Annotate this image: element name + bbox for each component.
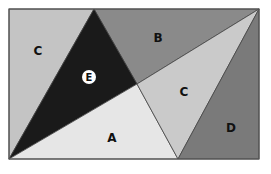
- label-d: D: [226, 121, 236, 135]
- label-c-left: C: [34, 44, 43, 58]
- label-b: B: [153, 31, 162, 45]
- partition-diagram: CBEACD: [0, 0, 271, 174]
- regions: [9, 9, 259, 159]
- label-a: A: [107, 131, 117, 145]
- label-c-right: C: [180, 85, 189, 99]
- label-e: E: [86, 72, 93, 83]
